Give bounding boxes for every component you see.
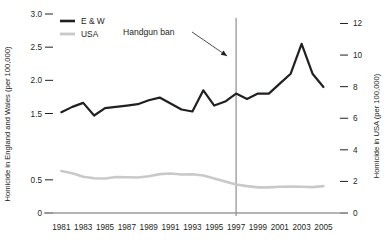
right-tick-label: 4 bbox=[353, 146, 358, 155]
chart-background bbox=[0, 0, 388, 244]
x-tick-label: 1991 bbox=[161, 223, 180, 232]
left-tick-label: 2.5 bbox=[31, 43, 43, 52]
left-axis-title: Homicide in England and Wales (per 100,0… bbox=[3, 46, 12, 202]
right-tick-label: 12 bbox=[353, 19, 363, 28]
x-tick-label: 1987 bbox=[118, 223, 137, 232]
left-tick-label: 1.5 bbox=[31, 110, 43, 119]
right-tick-label: 10 bbox=[353, 51, 363, 60]
right-axis-title: Homicide in USA (per 100,000) bbox=[372, 73, 381, 178]
x-tick-label: 2001 bbox=[271, 223, 290, 232]
x-tick-label: 1999 bbox=[249, 223, 268, 232]
x-tick-label: 2003 bbox=[292, 223, 311, 232]
legend-label-e-w: E & W bbox=[81, 16, 105, 26]
x-tick-label: 1995 bbox=[205, 223, 224, 232]
right-tick-label: 2 bbox=[353, 177, 358, 186]
homicide-dual-axis-line-chart: 3.02.52.01.50.50 121086420 1981198319851… bbox=[0, 0, 388, 244]
legend-label-usa: USA bbox=[81, 29, 99, 39]
left-tick-label: 3.0 bbox=[31, 10, 43, 19]
x-tick-label: 2005 bbox=[314, 223, 333, 232]
handgun-ban-label: Handgun ban bbox=[123, 27, 175, 37]
right-tick-label: 6 bbox=[353, 114, 358, 123]
right-tick-label: 0 bbox=[353, 209, 358, 218]
left-tick-label: 2.0 bbox=[31, 76, 43, 85]
left-tick-label: 0 bbox=[37, 209, 42, 218]
x-tick-label: 1985 bbox=[96, 223, 115, 232]
x-tick-label: 1997 bbox=[227, 223, 246, 232]
right-tick-label: 8 bbox=[353, 83, 358, 92]
x-tick-label: 1989 bbox=[140, 223, 159, 232]
x-tick-label: 1983 bbox=[74, 223, 93, 232]
x-tick-label: 1981 bbox=[52, 223, 71, 232]
chart-canvas: 3.02.52.01.50.50 121086420 1981198319851… bbox=[0, 0, 388, 244]
left-tick-label: 0.5 bbox=[31, 176, 43, 185]
x-tick-label: 1993 bbox=[183, 223, 202, 232]
